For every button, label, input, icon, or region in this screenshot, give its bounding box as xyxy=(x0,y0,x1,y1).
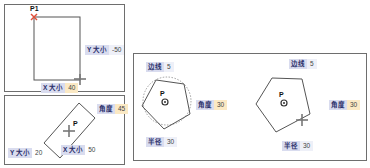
angle-value[interactable]: 30 xyxy=(347,100,360,110)
sides-value[interactable]: 5 xyxy=(164,62,174,72)
rotated-rectangle-panel: P 角度 45 Y 大小 20 X 大小 50 xyxy=(4,95,125,165)
x-size-field[interactable]: X 大小 50 xyxy=(61,145,98,155)
angle-label: 角度 xyxy=(196,100,214,110)
sides-label: 边线 xyxy=(146,62,164,72)
y-size-value[interactable]: -50 xyxy=(109,45,124,55)
y-size-field[interactable]: Y 大小 -50 xyxy=(85,45,124,55)
x-size-field[interactable]: X 大小 40 xyxy=(41,83,78,93)
y-size-label: Y 大小 xyxy=(8,148,32,158)
point-label: P xyxy=(73,120,78,127)
angle-label: 角度 xyxy=(329,100,347,110)
y-size-field[interactable]: Y 大小 20 xyxy=(8,148,45,158)
angle-field[interactable]: 角度 30 xyxy=(196,100,227,110)
angle-value[interactable]: 45 xyxy=(115,104,128,114)
radius-value[interactable]: 30 xyxy=(300,141,313,151)
y-size-value[interactable]: 20 xyxy=(32,148,45,158)
x-size-label: X 大小 xyxy=(41,83,65,93)
point-label: P xyxy=(279,91,284,98)
angle-field[interactable]: 角度 45 xyxy=(97,104,128,114)
x-size-label: X 大小 xyxy=(61,145,85,155)
radius-label: 半径 xyxy=(146,137,164,147)
point-label: P1 xyxy=(30,5,39,12)
polygon-panel: P 边线 5 角度 30 半径 30 P 边线 5 角度 30 半径 30 xyxy=(133,53,367,161)
sides-field[interactable]: 边线 5 xyxy=(289,59,317,69)
rectangle-panel: P1 Y 大小 -50 X 大小 40 xyxy=(4,4,125,92)
radius-field[interactable]: 半径 30 xyxy=(146,137,177,147)
y-size-label: Y 大小 xyxy=(85,45,109,55)
angle-value[interactable]: 30 xyxy=(214,100,227,110)
sides-value[interactable]: 5 xyxy=(307,59,317,69)
radius-field[interactable]: 半径 30 xyxy=(282,141,313,151)
sides-field[interactable]: 边线 5 xyxy=(146,62,174,72)
radius-value[interactable]: 30 xyxy=(164,137,177,147)
point-label: P xyxy=(160,90,165,97)
sides-label: 边线 xyxy=(289,59,307,69)
x-size-value[interactable]: 40 xyxy=(65,83,78,93)
angle-label: 角度 xyxy=(97,104,115,114)
angle-field[interactable]: 角度 30 xyxy=(329,100,360,110)
x-size-value[interactable]: 50 xyxy=(85,145,98,155)
radius-label: 半径 xyxy=(282,141,300,151)
